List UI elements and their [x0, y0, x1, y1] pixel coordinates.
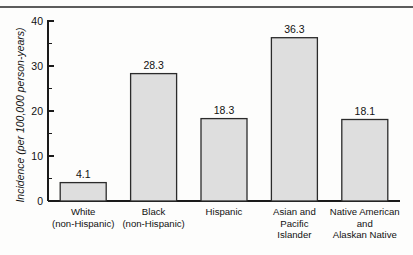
y-axis-ticks	[48, 21, 54, 201]
bars-layer	[60, 38, 388, 201]
y-tick-label: 20	[31, 105, 43, 117]
y-tick-label: 10	[31, 150, 43, 162]
bar-value-label: 4.1	[76, 168, 91, 180]
category-label-line: (non-Hispanic)	[122, 218, 184, 229]
bar	[131, 74, 177, 201]
bar	[60, 183, 106, 201]
category-label-line: Islander	[277, 229, 312, 240]
bar-value-label: 36.3	[284, 23, 305, 35]
bar-chart: Incidence (per 100,000 person-years) 010…	[0, 0, 413, 255]
bar-value-label: 28.3	[143, 59, 164, 71]
category-label-line: Alaskan Native	[333, 229, 397, 240]
y-axis-tick-labels: 010203040	[31, 15, 43, 207]
bar-value-label: 18.3	[214, 104, 235, 116]
bar	[201, 119, 247, 201]
x-axis-category-labels: White(non-Hispanic)Black(non-Hispanic)Hi…	[52, 206, 400, 240]
y-tick-label: 30	[31, 60, 43, 72]
category-label-line: and	[357, 218, 373, 229]
category-label-line: Asian and	[273, 206, 316, 217]
category-label-line: Native American	[330, 206, 400, 217]
figure-container: Incidence (per 100,000 person-years) 010…	[0, 0, 413, 255]
y-axis-title: Incidence (per 100,000 person-years)	[14, 27, 26, 202]
bar	[342, 120, 388, 202]
category-label-line: Hispanic	[206, 206, 243, 217]
category-label-line: (non-Hispanic)	[52, 218, 114, 229]
y-tick-label: 40	[31, 15, 43, 27]
category-label-line: Pacific	[280, 218, 308, 229]
y-axis-title-group: Incidence (per 100,000 person-years)	[14, 27, 26, 202]
y-tick-label: 0	[37, 195, 43, 207]
category-label-line: Black	[142, 206, 166, 217]
bar	[271, 38, 317, 201]
category-label-line: White	[71, 206, 96, 217]
bar-value-label: 18.1	[355, 105, 376, 117]
